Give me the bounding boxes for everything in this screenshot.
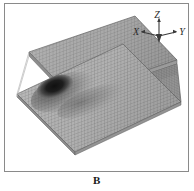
axis-label-x: X	[132, 26, 140, 37]
coordinate-axis-indicator: Z X Y	[131, 10, 187, 52]
axis-origin-arrow	[156, 34, 162, 43]
axis-arrowhead-x	[141, 30, 145, 34]
axis-label-y: Y	[179, 26, 186, 37]
axis-arrowhead-y	[173, 30, 177, 34]
axis-label-z: Z	[154, 10, 160, 20]
figure-panel-border: Z X Y	[4, 3, 189, 172]
figure-caption: B	[0, 174, 194, 186]
figure-container: Z X Y B	[0, 0, 194, 191]
